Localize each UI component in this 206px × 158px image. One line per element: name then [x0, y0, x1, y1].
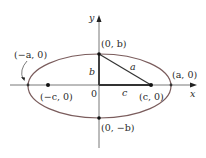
point-left-focus	[46, 83, 50, 87]
point-top-vertex	[97, 52, 101, 56]
y-axis-label: y	[88, 12, 95, 23]
point-right-vertex	[170, 84, 173, 87]
point-bottom-vertex	[97, 116, 101, 120]
x-axis-label: x	[190, 88, 196, 99]
left-focus-label: (−c, 0)	[40, 91, 73, 102]
segment-a	[99, 54, 151, 85]
point-right-focus	[149, 83, 153, 87]
right-focus-label: (c, 0)	[139, 91, 164, 102]
right-vertex-label: (a, 0)	[172, 69, 197, 80]
y-axis-arrow-icon	[97, 15, 102, 22]
segment-c-label: c	[122, 87, 128, 98]
segment-a-label: a	[130, 61, 136, 72]
bottom-vertex-label: (0, −b)	[101, 122, 135, 133]
left-vertex-label: (−a, 0)	[14, 49, 47, 60]
point-left-vertex	[27, 84, 30, 87]
pointer-arrowhead-icon	[21, 77, 25, 81]
pointer-arrow-icon	[22, 61, 27, 79]
top-vertex-label: (0, b)	[101, 38, 127, 49]
origin-label: 0	[91, 88, 97, 99]
segment-b-label: b	[89, 66, 95, 77]
ellipse-diagram: y x 0 (0, b) (0, −b) (−a, 0) (a, 0) (−c,…	[0, 0, 206, 158]
x-axis-arrow-icon	[190, 83, 197, 88]
